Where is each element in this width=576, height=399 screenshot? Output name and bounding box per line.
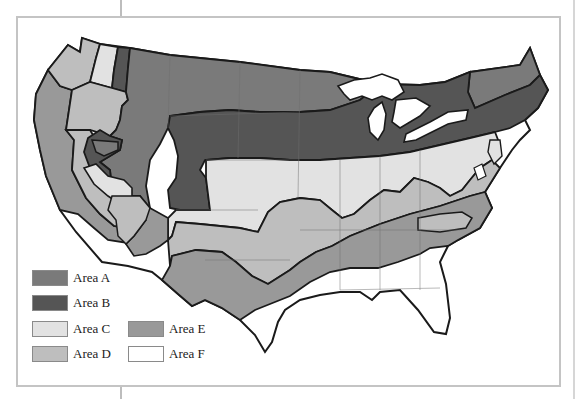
legend-label-area-c: Area C bbox=[73, 321, 110, 337]
legend-swatch-area-e bbox=[128, 321, 164, 337]
legend-label-area-b: Area B bbox=[73, 295, 110, 311]
legend-item-area-d: Area D bbox=[32, 345, 111, 363]
legend-swatch-area-a bbox=[32, 270, 68, 286]
legend-item-area-c: Area C bbox=[32, 320, 110, 338]
legend-swatch-area-d bbox=[32, 346, 68, 362]
legend-item-area-a: Area A bbox=[32, 269, 110, 287]
legend-item-area-e: Area E bbox=[128, 320, 205, 338]
legend-label-area-f: Area F bbox=[169, 346, 205, 362]
legend-label-area-d: Area D bbox=[73, 346, 111, 362]
map-legend: Area A Area B Area C Area D Area E Area … bbox=[32, 269, 272, 369]
legend-label-area-a: Area A bbox=[73, 270, 110, 286]
legend-swatch-area-b bbox=[32, 295, 68, 311]
legend-item-area-f: Area F bbox=[128, 345, 205, 363]
legend-swatch-area-c bbox=[32, 321, 68, 337]
legend-item-area-b: Area B bbox=[32, 294, 110, 312]
legend-swatch-area-f bbox=[128, 346, 164, 362]
legend-label-area-e: Area E bbox=[169, 321, 205, 337]
